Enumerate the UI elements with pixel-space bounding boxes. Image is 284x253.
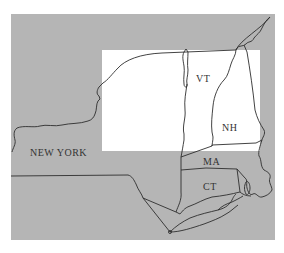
label-connecticut: CT — [203, 181, 217, 192]
label-new-york: NEW YORK — [30, 147, 87, 158]
highlight-region — [102, 50, 260, 151]
label-massachusetts: MA — [203, 156, 220, 167]
label-new-hampshire: NH — [222, 122, 237, 133]
northeast-us-map: NEW YORK VT NH MA CT — [0, 0, 284, 253]
label-vermont: VT — [196, 73, 210, 84]
